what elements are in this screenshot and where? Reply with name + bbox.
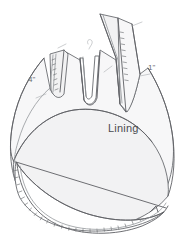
sewing-diagram-illustration: Lining bbox=[0, 0, 188, 240]
right-strap-tip-tick bbox=[132, 22, 142, 26]
left-dimension-label: 4" bbox=[28, 75, 35, 84]
lining-label: Lining bbox=[108, 122, 139, 134]
left-strap-tip-tick bbox=[58, 44, 66, 48]
right-dimension-label: 1" bbox=[148, 63, 155, 72]
figure-svg: Lining bbox=[0, 0, 188, 240]
center-leader-curl bbox=[87, 40, 92, 49]
